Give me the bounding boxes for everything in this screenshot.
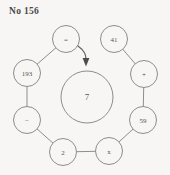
puzzle-canvas: 7 =41+59x2−193: [0, 0, 170, 175]
ring-node-n2: 2: [50, 139, 77, 166]
ring-edge: [37, 129, 53, 143]
ring-node-n41: 41: [101, 26, 128, 53]
ring-node-minus: −: [14, 107, 41, 134]
pointer-arrow: [78, 46, 89, 67]
node-label: 193: [22, 70, 33, 78]
node-label: +: [142, 71, 146, 79]
node-label: 2: [61, 149, 65, 157]
arrow-head-icon: [83, 58, 90, 67]
center-value: 7: [85, 92, 90, 102]
ring-edge: [123, 49, 135, 64]
node-label: 41: [111, 36, 119, 44]
puzzle-diagram: No 156 7 =41+59x2−193: [0, 0, 170, 175]
ring-edge: [37, 48, 56, 64]
ring-node-n193: 193: [14, 60, 41, 87]
ring-node-plus: +: [131, 61, 158, 88]
ring-node-times: x: [96, 138, 123, 165]
node-label: =: [64, 36, 68, 44]
ring-node-equals: =: [53, 26, 80, 53]
ring-edge: [119, 129, 133, 142]
center-node: 7: [61, 71, 113, 123]
node-label: −: [25, 117, 29, 125]
node-label: 59: [140, 117, 148, 125]
ring-node-n59: 59: [130, 107, 157, 134]
node-label: x: [107, 148, 111, 156]
arrow-line: [78, 46, 86, 60]
